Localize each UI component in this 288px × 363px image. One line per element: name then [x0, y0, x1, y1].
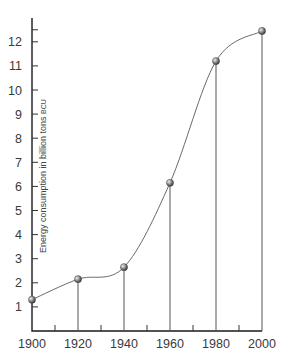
y-tick-label: 9 — [15, 108, 22, 122]
y-axis-title-group: Energy consumption in billion tons BCU — [38, 99, 48, 253]
x-tick-label: 2000 — [248, 337, 276, 351]
x-tick-label: 1940 — [110, 337, 138, 351]
x-tick-label: 1900 — [18, 337, 46, 351]
y-axis-title: Energy consumption in billion tons BCU — [38, 99, 48, 253]
y-tick-label: 7 — [15, 156, 22, 170]
x-tick-label: 1920 — [64, 337, 92, 351]
x-tick-label: 1980 — [202, 337, 230, 351]
y-tick-label: 4 — [15, 228, 22, 242]
y-tick-label: 5 — [15, 204, 22, 218]
y-tick-label: 10 — [8, 84, 22, 98]
energy-consumption-curve — [32, 31, 262, 300]
data-point-marker — [258, 27, 265, 34]
y-tick-label: 8 — [15, 132, 22, 146]
x-axis-ticks: 190019201940196019802000 — [18, 325, 276, 351]
data-point-marker — [166, 179, 173, 186]
y-tick-label: 11 — [9, 59, 22, 73]
data-point-marker — [120, 264, 127, 271]
data-point-marker — [74, 276, 81, 283]
y-tick-label: 2 — [15, 276, 22, 290]
data-point-marker — [212, 57, 219, 64]
y-tick-label: 1 — [15, 300, 22, 314]
x-tick-label: 1960 — [156, 337, 184, 351]
energy-consumption-chart: Energy consumption in billion tons BCU 1… — [0, 0, 288, 363]
y-axis-ticks: 123456789101112 — [8, 30, 38, 315]
y-tick-label: 6 — [15, 180, 22, 194]
data-point-marker — [28, 296, 35, 303]
y-tick-label: 3 — [15, 252, 22, 266]
data-points — [28, 27, 265, 303]
y-tick-label: 12 — [8, 35, 22, 49]
